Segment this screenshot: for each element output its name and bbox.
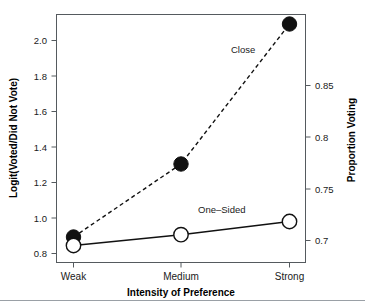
left-tick-label: 1.8	[34, 71, 47, 82]
voting-logit-chart: 2.0 1.8 1.6 1.4 1.2 1.0 0.8 Logit(Voted/…	[0, 0, 365, 306]
left-tick-label: 0.8	[34, 248, 47, 259]
category-label-weak: Weak	[61, 271, 87, 282]
right-tick-label: 0.75	[315, 184, 334, 195]
left-tick-label: 2.0	[34, 35, 47, 46]
right-tick-label: 0.85	[315, 80, 334, 91]
right-tick-label: 0.7	[315, 235, 328, 246]
left-tick-label: 1.0	[34, 213, 47, 224]
data-point-one-sided-medium	[174, 228, 188, 242]
data-point-close-strong	[282, 17, 296, 31]
x-axis-title: Intensity of Preference	[127, 287, 235, 298]
data-point-one-sided-weak	[66, 238, 80, 252]
chart-background	[0, 0, 365, 306]
right-axis-title: Proportion Voting	[346, 98, 357, 182]
right-tick-label: 0.8	[315, 132, 328, 143]
category-label-strong: Strong	[275, 271, 304, 282]
series-annotation-close: Close	[231, 44, 255, 55]
left-axis-title: Logit(Voted/Did Not Vote)	[8, 78, 19, 198]
data-point-close-medium	[174, 157, 188, 171]
data-point-one-sided-strong	[282, 214, 296, 228]
left-tick-label: 1.6	[34, 106, 47, 117]
series-annotation-one-sided: One–Sided	[198, 204, 246, 215]
category-label-medium: Medium	[163, 271, 199, 282]
left-tick-label: 1.2	[34, 177, 47, 188]
left-tick-label: 1.4	[34, 142, 47, 153]
